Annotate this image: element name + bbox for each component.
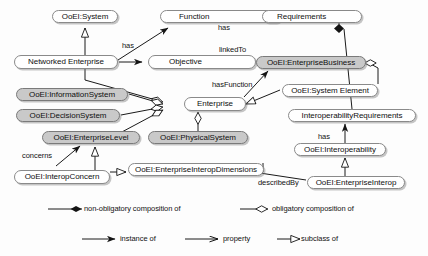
node-label: OoEI:InteropConcern: [25, 173, 100, 181]
edge-label-has-requirements: has: [218, 24, 230, 32]
node-ooei-informationsystem[interactable]: OoEI:InformationSystem: [16, 88, 128, 101]
node-label: OoEI:System Element: [291, 87, 369, 95]
edge-label-describedby: describedBy: [258, 179, 299, 187]
node-label: OoEI:EnterpriseBusiness: [267, 59, 355, 67]
node-label: Objective: [169, 58, 202, 66]
edge-enterprisebusiness-aggregation-stem: [367, 62, 378, 84]
node-interoperability-requirements[interactable]: InteroperabilityRequirements: [288, 109, 416, 122]
node-objective[interactable]: Objective: [148, 55, 256, 69]
node-ooei-interopconcern[interactable]: OoEI:InteropConcern: [14, 170, 110, 184]
legend-label-property: property: [223, 235, 250, 243]
node-ooei-decisionsystem[interactable]: OoEI:DecisionSystem: [16, 109, 120, 122]
legend-label-non-obligatory-composition: non-obligatory composition of: [84, 205, 181, 213]
node-label: OoEI:InformationSystem: [29, 91, 115, 99]
node-ooei-enterpriselevel[interactable]: OoEI:EnterpriseLevel: [42, 131, 140, 144]
edge-interopconcern-concerns-enterpriselevel: [56, 146, 80, 166]
node-label: OoEI:DecisionSystem: [30, 112, 107, 120]
node-label: InteroperabilityRequirements: [302, 112, 403, 120]
node-networked-enterprise[interactable]: Networked Enterprise: [14, 55, 118, 69]
node-ooei-interoperability[interactable]: OoEI:Interoperability: [294, 143, 386, 156]
node-enterprise[interactable]: Enterprise: [184, 97, 246, 111]
node-requirements[interactable]: Requirements: [262, 10, 362, 23]
edge-label-linkedto: linkedTo: [219, 46, 246, 54]
node-ooei-system[interactable]: OoEI:System: [52, 10, 118, 23]
node-label: OoEI:System: [62, 13, 109, 21]
node-label: Networked Enterprise: [28, 58, 104, 66]
node-ooei-enterpriseinteropdimensions[interactable]: OoEI:EnterpriseInteropDimensions: [128, 163, 264, 176]
node-label: Enterprise: [197, 100, 233, 108]
node-label: OoEI:EnterpriseInteropDimensions: [135, 166, 257, 174]
node-ooei-enterpriseinterop[interactable]: OoEI:EnterpriseInterop: [307, 176, 405, 189]
node-label: OoEI:PhysicalSystem: [160, 134, 236, 142]
edge-system-element-subclass-enterprise: [246, 90, 280, 104]
diagram-canvas: Function --> Requirements --> Objective …: [0, 0, 428, 256]
node-ooei-system-element[interactable]: OoEI:System Element: [282, 84, 378, 97]
marker-requirements-filled-diamond: [334, 24, 344, 33]
node-label: OoEI:EnterpriseLevel: [53, 134, 128, 142]
edge-label-hasfunction: hasFunction: [212, 81, 252, 89]
node-label: OoEI:EnterpriseInterop: [316, 179, 397, 187]
edge-enterpriselevel-aggregates-enterprise: [120, 110, 163, 133]
legend-label-obligatory-composition: obligatory composition of: [272, 205, 354, 213]
node-ooei-enterprisebusiness[interactable]: OoEI:EnterpriseBusiness: [256, 56, 366, 69]
edge-decisionsystem-aggregates-enterprise: [121, 107, 163, 115]
node-ooei-physicalsystem[interactable]: OoEI:PhysicalSystem: [148, 131, 248, 144]
node-label: OoEI:Interoperability: [304, 146, 376, 154]
edge-label-concerns: concerns: [22, 152, 52, 160]
node-label: Requirements: [277, 13, 326, 21]
legend-label-instance-of: instance of: [120, 235, 156, 243]
legend-label-subclass-of: subclass of: [301, 235, 338, 243]
edge-informationsystem-aggregates-enterprise: [129, 94, 163, 104]
diagram-connectors: Function --> Requirements --> Objective …: [0, 0, 428, 256]
edge-label-has-function: has: [122, 42, 134, 50]
node-label: Function: [179, 13, 209, 21]
edge-requirements-composition-interopreq: [344, 29, 352, 109]
edge-label-has-interoperability: has: [318, 133, 330, 141]
